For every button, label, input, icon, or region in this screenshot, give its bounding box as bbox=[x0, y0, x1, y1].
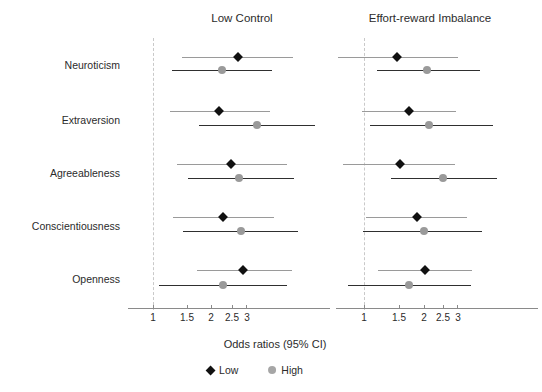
diamond-icon bbox=[206, 365, 216, 375]
y-axis-label-neuroticism: Neuroticism bbox=[65, 59, 120, 71]
x-axis-right bbox=[336, 308, 538, 309]
marker-low-control-extraversion-high bbox=[253, 121, 261, 129]
tick-label-left-1: 1 bbox=[150, 312, 156, 323]
panel-title-right: Effort-reward Imbalance bbox=[369, 12, 492, 24]
tick-left-1 bbox=[153, 305, 154, 309]
tick-right-3 bbox=[457, 305, 458, 309]
reference-line-left bbox=[153, 38, 154, 310]
marker-low-control-openness-high bbox=[219, 281, 227, 289]
legend-item-low: Low bbox=[207, 364, 238, 376]
x-axis-left bbox=[128, 308, 330, 309]
tick-label-right-2: 2 bbox=[421, 312, 427, 323]
marker-low-control-neuroticism-high bbox=[218, 66, 226, 74]
panel-title-left: Low Control bbox=[211, 12, 272, 24]
tick-left-1p5 bbox=[187, 305, 188, 309]
tick-right-1p5 bbox=[399, 305, 400, 309]
marker-eri-openness-low bbox=[420, 265, 430, 275]
tick-right-2p5 bbox=[443, 305, 444, 309]
marker-eri-openness-high bbox=[405, 281, 413, 289]
marker-low-control-openness-low bbox=[238, 265, 248, 275]
marker-eri-neuroticism-low bbox=[392, 52, 402, 62]
y-axis-label-conscientiousness: Conscientiousness bbox=[32, 220, 120, 232]
tick-label-left-2p5: 2.5 bbox=[225, 312, 239, 323]
reference-line-right bbox=[364, 38, 365, 310]
tick-left-2 bbox=[211, 305, 212, 309]
tick-label-right-1p5: 1.5 bbox=[392, 312, 406, 323]
x-axis-title: Odds ratios (95% CI) bbox=[224, 338, 327, 350]
legend-label-low: Low bbox=[219, 364, 238, 376]
marker-low-control-agreeableness-high bbox=[235, 174, 243, 182]
marker-eri-agreeableness-high bbox=[439, 174, 447, 182]
legend-item-high: High bbox=[268, 364, 303, 376]
tick-right-2 bbox=[424, 305, 425, 309]
y-axis-label-openness: Openness bbox=[72, 273, 120, 285]
marker-eri-agreeableness-low bbox=[395, 159, 405, 169]
tick-label-right-2p5: 2.5 bbox=[436, 312, 450, 323]
tick-label-left-2: 2 bbox=[208, 312, 214, 323]
forest-plot: Low Control Effort-reward Imbalance Neur… bbox=[0, 0, 542, 392]
marker-eri-conscientiousness-high bbox=[420, 227, 428, 235]
marker-low-control-neuroticism-low bbox=[233, 52, 243, 62]
tick-label-right-3: 3 bbox=[455, 312, 461, 323]
y-axis-label-agreeableness: Agreeableness bbox=[50, 167, 120, 179]
y-axis-label-extraversion: Extraversion bbox=[62, 114, 120, 126]
tick-left-3 bbox=[246, 305, 247, 309]
marker-eri-extraversion-high bbox=[425, 121, 433, 129]
circle-icon bbox=[268, 366, 276, 374]
marker-eri-conscientiousness-low bbox=[412, 212, 422, 222]
tick-label-left-1p5: 1.5 bbox=[180, 312, 194, 323]
marker-low-control-conscientiousness-high bbox=[237, 227, 245, 235]
tick-left-2p5 bbox=[232, 305, 233, 309]
legend-label-high: High bbox=[281, 364, 303, 376]
marker-eri-neuroticism-high bbox=[423, 66, 431, 74]
legend: Low High bbox=[207, 364, 303, 376]
marker-low-control-agreeableness-low bbox=[226, 159, 236, 169]
tick-label-left-3: 3 bbox=[244, 312, 250, 323]
marker-low-control-extraversion-low bbox=[214, 106, 224, 116]
tick-label-right-1: 1 bbox=[361, 312, 367, 323]
marker-eri-extraversion-low bbox=[404, 106, 414, 116]
tick-right-1 bbox=[364, 305, 365, 309]
marker-low-control-conscientiousness-low bbox=[218, 212, 228, 222]
